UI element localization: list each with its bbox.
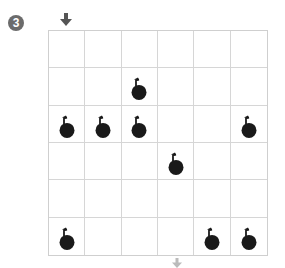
bomb-icon: [93, 114, 113, 138]
grid-cell[interactable]: [194, 68, 230, 105]
grid-cell[interactable]: [49, 180, 85, 217]
grid-cell[interactable]: [122, 31, 158, 68]
grid-cell[interactable]: [158, 180, 194, 217]
grid-cell[interactable]: [49, 106, 85, 143]
grid-cell[interactable]: [158, 143, 194, 180]
grid-cell[interactable]: [231, 180, 267, 217]
grid-cell[interactable]: [194, 106, 230, 143]
grid-cell[interactable]: [231, 68, 267, 105]
bomb-icon: [239, 114, 259, 138]
grid-cell[interactable]: [85, 68, 121, 105]
grid-cell[interactable]: [49, 143, 85, 180]
grid-cell[interactable]: [49, 68, 85, 105]
grid-cell[interactable]: [85, 143, 121, 180]
grid-cell[interactable]: [122, 68, 158, 105]
grid-cell[interactable]: [85, 31, 121, 68]
grid-cell[interactable]: [158, 31, 194, 68]
grid-cell[interactable]: [158, 68, 194, 105]
bomb-icon: [166, 152, 186, 176]
grid-cell[interactable]: [158, 218, 194, 255]
grid-cell[interactable]: [231, 106, 267, 143]
bomb-icon: [239, 227, 259, 251]
grid-cell[interactable]: [231, 218, 267, 255]
grid-cell[interactable]: [122, 180, 158, 217]
exit-arrow-icon: [172, 258, 182, 268]
grid-cell[interactable]: [85, 106, 121, 143]
grid-cell[interactable]: [231, 143, 267, 180]
grid-cell[interactable]: [194, 218, 230, 255]
entry-arrow-icon: [60, 13, 72, 27]
bomb-icon: [129, 114, 149, 138]
grid-cell[interactable]: [158, 106, 194, 143]
puzzle-grid: [48, 30, 268, 256]
bomb-icon: [202, 227, 222, 251]
grid-cell[interactable]: [85, 180, 121, 217]
grid-cell[interactable]: [49, 218, 85, 255]
grid-cell[interactable]: [122, 218, 158, 255]
grid-cell[interactable]: [122, 106, 158, 143]
grid-cell[interactable]: [49, 31, 85, 68]
bomb-icon: [129, 77, 149, 101]
bomb-icon: [57, 227, 77, 251]
grid-cell[interactable]: [122, 143, 158, 180]
bomb-icon: [57, 114, 77, 138]
grid-cell[interactable]: [194, 180, 230, 217]
grid-cell[interactable]: [194, 143, 230, 180]
grid-cell[interactable]: [85, 218, 121, 255]
grid-cell[interactable]: [231, 31, 267, 68]
puzzle-number-badge: 3: [8, 15, 24, 31]
grid-cell[interactable]: [194, 31, 230, 68]
